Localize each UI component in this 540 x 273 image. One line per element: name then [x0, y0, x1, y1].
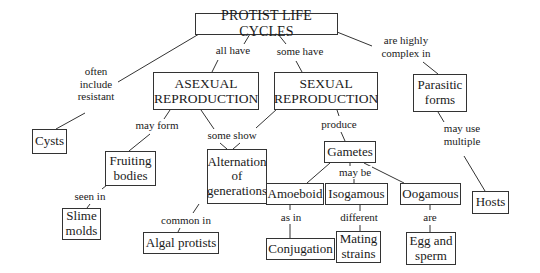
- link-label-seen-in: seen in: [74, 190, 107, 203]
- node-slime-molds: Slime molds: [62, 208, 101, 240]
- link-label-some-have: some have: [276, 45, 325, 58]
- link-label-are-highly-complex-in: are highly complex in: [380, 34, 431, 59]
- link-label-common-in: common in: [160, 214, 212, 227]
- link-label-all-have: all have: [215, 44, 252, 57]
- node-fruiting-bodies: Fruiting bodies: [105, 151, 156, 186]
- node-alternation-of-generations: Alternation of generations: [207, 149, 267, 204]
- link-label-may-form: may form: [134, 119, 179, 132]
- node-protist-life-cycles: PROTIST LIFE CYCLES: [195, 13, 338, 35]
- node-algal-protists: Algal protists: [143, 232, 219, 254]
- node-amoeboid: Amoeboid: [266, 183, 324, 205]
- node-egg-and-sperm: Egg and sperm: [406, 232, 456, 265]
- node-cysts: Cysts: [32, 129, 67, 154]
- node-isogamous: Isogamous: [325, 183, 388, 205]
- node-parasitic-forms: Parasitic forms: [413, 74, 467, 112]
- node-oogamous: Oogamous: [400, 183, 461, 205]
- link-label-may-be: may be: [338, 166, 372, 179]
- link-label-some-show: some show: [206, 129, 257, 142]
- node-asexual-reproduction: ASEXUAL REPRODUCTION: [153, 72, 259, 110]
- link-label-produce: produce: [320, 118, 357, 131]
- node-sexual-reproduction: SEXUAL REPRODUCTION: [274, 72, 378, 110]
- node-mating-strains: Mating strains: [336, 231, 381, 263]
- link-label-often-include-resistant: often include resistant: [77, 65, 116, 103]
- node-gametes: Gametes: [324, 141, 376, 163]
- link-label-may-use-multiple: may use multiple: [443, 122, 482, 147]
- link-label-are: are: [422, 211, 437, 224]
- concept-map: PROTIST LIFE CYCLES ASEXUAL REPRODUCTION…: [0, 0, 540, 273]
- node-conjugation: Conjugation: [266, 238, 335, 260]
- link-label-different: different: [339, 211, 379, 224]
- link-label-as-in: as in: [280, 211, 302, 224]
- node-hosts: Hosts: [472, 191, 509, 214]
